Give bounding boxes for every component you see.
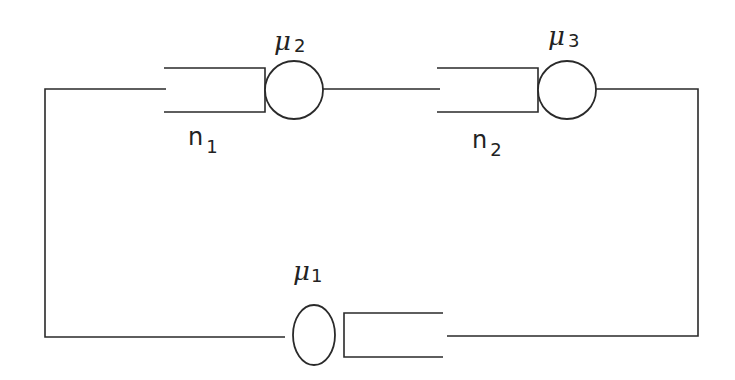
queue-buffer-n1 — [164, 68, 265, 112]
queueing-network-diagram: μ2 μ3 μ1 n1 n2 — [0, 0, 735, 380]
station-2 — [164, 61, 323, 119]
label-mu2: μ2 — [274, 26, 305, 56]
label-mu3: μ3 — [548, 21, 579, 51]
label-mu1: μ1 — [293, 256, 322, 286]
label-n2: n2 — [472, 126, 502, 160]
label-n1: n1 — [188, 123, 218, 157]
server-mu2 — [265, 61, 323, 119]
station-3 — [437, 61, 596, 119]
server-mu3 — [538, 61, 596, 119]
queue-buffer-n0 — [344, 313, 443, 357]
left-return-wire — [45, 89, 285, 337]
station-1 — [293, 305, 443, 365]
queue-buffer-n2 — [437, 68, 538, 112]
server-mu1 — [293, 305, 335, 365]
